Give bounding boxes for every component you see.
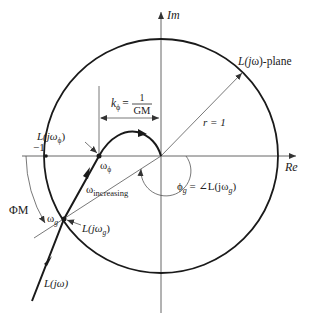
k-phi-label: kϕ= [111,97,129,112]
real-axis-label: Re [284,160,298,174]
gain-crossover-point-label: L(jωg) [81,222,110,237]
nyquist-curve-label: L(jω) [43,277,69,290]
imag-axis-label: Im [166,8,180,22]
phase-crossover-point [97,154,102,159]
nyquist-diagram: Re Im −1 r = 1 L(jω)-plane kϕ= 1 GM ΦM ϕ… [0,0,311,327]
gain-crossover-freq-label: ωg [47,212,58,227]
plane-label: L(jω)-plane [237,55,292,68]
phase-crossover-freq-label: ωϕ [100,159,111,174]
gm-fraction-denominator: GM [134,105,152,116]
phase-crossover-pointer [85,142,97,153]
radius-label: r = 1 [203,116,226,128]
omega-increasing-label: ωincreasing [86,183,129,198]
gain-crossover-pointer [67,220,81,225]
gm-fraction-numerator: 1 [140,92,145,103]
radius-arrow [161,73,242,156]
phase-angle-label: ϕg = ∠L(jωg) [177,180,236,195]
curve-arrow-middle [83,167,90,179]
gain-margin-dimension: kϕ= 1 GM [99,86,159,156]
phase-margin-label: ΦM [9,203,29,217]
axes: Re Im −1 [22,8,298,313]
gain-crossover-point [62,217,67,222]
phase-margin-arc [26,156,45,223]
minus-one-label: −1 [33,141,45,153]
